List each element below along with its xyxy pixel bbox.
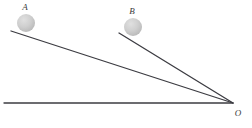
ball-b — [124, 18, 142, 36]
diagram-canvas: A B O — [0, 0, 252, 128]
physics-diagram: A B O — [0, 0, 252, 128]
ball-a — [17, 14, 35, 32]
incline-line-b — [119, 33, 233, 103]
vertex-o-label: O — [235, 108, 242, 118]
ball-a-label: A — [21, 2, 28, 12]
ball-b-label: B — [129, 6, 135, 16]
incline-line-a — [11, 31, 233, 103]
